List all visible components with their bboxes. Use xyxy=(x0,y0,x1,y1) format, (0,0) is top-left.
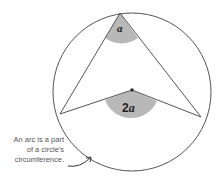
caption-line: An arc is a part xyxy=(2,135,64,145)
caption-line: circumference. xyxy=(2,155,64,165)
label-2a: 2a xyxy=(122,101,135,115)
caption-line: of a circle's xyxy=(2,145,64,155)
label-a: a xyxy=(117,22,123,34)
arc-caption: An arc is a part of a circle's circumfer… xyxy=(2,135,64,165)
arrow-icon xyxy=(68,158,90,166)
center-point xyxy=(130,88,134,92)
